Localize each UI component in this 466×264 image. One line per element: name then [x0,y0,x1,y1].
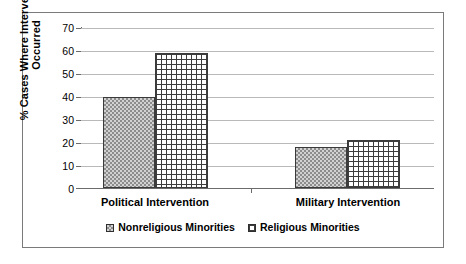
y-tick-20: 20 [42,138,74,148]
legend-label-nonreligious: Nonreligious Minorities [118,222,235,233]
legend-item-nonreligious[interactable]: Nonreligious Minorities [106,222,235,233]
dots-swatch-icon [106,224,114,232]
legend-separator [23,214,443,215]
bar-political-nonreligious[interactable] [103,97,155,188]
gridline-60 [81,51,434,52]
y-tick-label-70: 70 [48,23,74,33]
x-axis-line [81,188,434,189]
gridline-70 [81,28,434,29]
x-category-label-political: Political Intervention [55,196,255,208]
x-axis-category-divider-tick [251,188,252,193]
y-tick-10: 10 [42,161,74,171]
y-tick-40: 40 [42,92,74,102]
y-tick-label-60: 60 [48,46,74,56]
y-tick-label-50: 50 [48,69,74,79]
y-tick-30: 30 [42,115,74,125]
y-axis-title: % Cases Where Intervention Occurred [18,0,42,133]
chart-legend: Nonreligious Minorities Religious Minori… [22,222,444,233]
gridline-50 [81,74,434,75]
grid-swatch-icon [248,224,256,232]
y-tick-60: 60 [42,46,74,56]
y-tick-label-0: 0 [48,184,74,194]
bar-military-nonreligious[interactable] [295,147,347,188]
x-category-label-military: Military Intervention [250,196,446,208]
y-tick-70: 70 [42,23,74,33]
y-tick-label-30: 30 [48,115,74,125]
y-tick-0: 0 [42,184,74,194]
plot-area [81,28,434,188]
chart-figure: % Cases Where Intervention Occurred 70 6… [0,0,466,264]
y-tick-label-10: 10 [48,161,74,171]
bar-political-religious[interactable] [155,53,208,188]
y-tick-label-40: 40 [48,92,74,102]
legend-label-religious: Religious Minorities [260,222,360,233]
legend-item-religious[interactable]: Religious Minorities [248,222,360,233]
bar-military-religious[interactable] [347,140,400,188]
y-tick-label-20: 20 [48,138,74,148]
y-tick-50: 50 [42,69,74,79]
